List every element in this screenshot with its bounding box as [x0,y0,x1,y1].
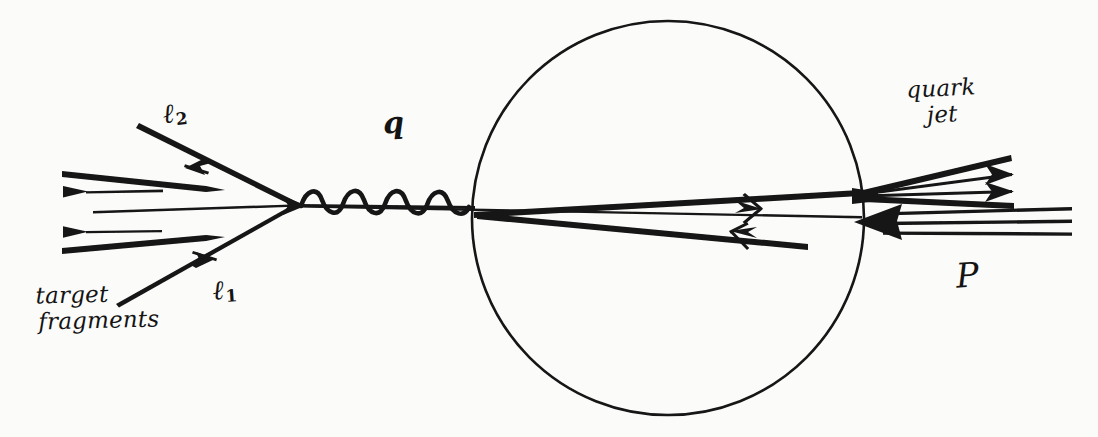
diagram-svg [0,0,1098,437]
target-fragment-arrow-2 [63,186,163,198]
target-fragment-arrow-4 [63,226,162,238]
proton-arrowhead [854,204,902,240]
label-boson-q: q [382,107,405,139]
label-target-fragments: targetfragments [35,281,159,334]
target-fragment-line-5 [62,235,225,254]
label-lepton-in-subscript: 1 [225,285,238,306]
label-target-fragments-line1: target [35,281,108,309]
label-lepton-out-subscript: 2 [175,108,189,129]
label-lepton-out: ℓ2 [162,98,189,129]
proton-line-1 [883,207,1072,216]
proton-line-2 [883,220,1072,226]
label-quark-jet-line1: quark [906,73,976,103]
parton-line-lower [477,213,808,250]
target-fragment-line-3 [93,204,300,213]
proton-blob-circle [472,21,864,415]
label-lepton-in: ℓ1 [212,275,238,306]
label-quark-jet-line2: jet [907,102,977,129]
label-target-fragments-line2: fragments [38,308,160,335]
label-proton: P [955,257,980,293]
lepton-out-line [136,123,300,208]
parton-lower-arrowhead [729,222,757,250]
label-quark-jet: quarkjet [906,75,978,128]
figure-canvas: ℓ2 ℓ1 q targetfragments quarkjet P [0,0,1098,437]
target-fragment-line-1 [62,171,225,192]
proton-line-3 [883,231,1072,235]
